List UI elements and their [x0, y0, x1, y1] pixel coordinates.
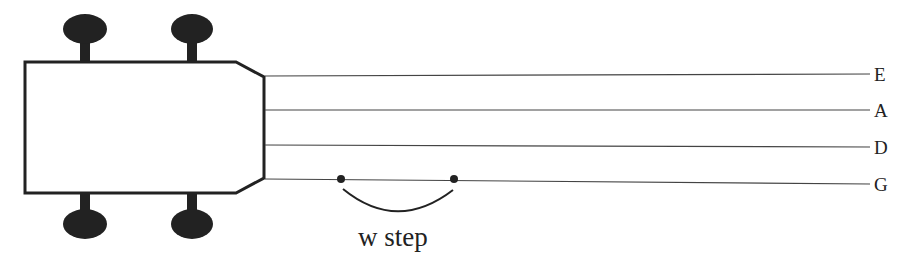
tuning-peg-bottom-left	[63, 192, 107, 239]
note-dot-start	[337, 175, 345, 183]
headstock-body	[25, 62, 264, 193]
tuning-peg-bottom-right	[171, 192, 213, 239]
whole-step-label: w step	[358, 222, 428, 252]
string-label-a: A	[874, 100, 888, 121]
string-d-line	[265, 145, 870, 147]
string-e-line	[265, 74, 870, 76]
string-label-g: G	[874, 174, 888, 195]
string-label-e: E	[874, 64, 886, 85]
note-dot-end	[450, 175, 458, 183]
string-g-line	[265, 179, 870, 184]
whole-step-arc	[343, 189, 453, 211]
string-label-d: D	[874, 137, 888, 158]
tuning-peg-top-left	[63, 14, 107, 64]
tuning-peg-top-right	[171, 14, 213, 64]
guitar-headstock-diagram: E A D G w step	[0, 0, 913, 262]
